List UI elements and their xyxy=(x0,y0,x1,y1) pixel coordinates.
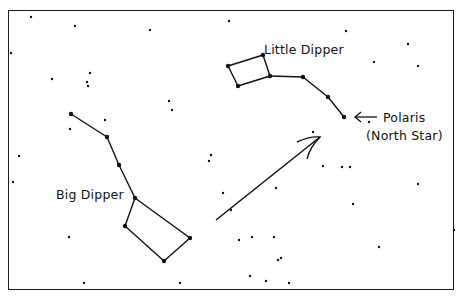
star-icon xyxy=(87,85,89,87)
star-icon xyxy=(345,30,347,32)
star-icon xyxy=(352,203,354,205)
star-icon xyxy=(275,187,277,189)
big-dipper-star-icon xyxy=(123,224,127,228)
star-icon xyxy=(453,229,455,231)
star-icon xyxy=(238,239,240,241)
big-dipper-star-icon xyxy=(133,196,137,200)
little-dipper-line xyxy=(238,76,270,86)
star-icon xyxy=(68,236,70,238)
star-icon xyxy=(265,280,267,282)
star-icon xyxy=(149,29,151,31)
star-icon xyxy=(277,259,279,261)
little-dipper-line xyxy=(228,55,263,66)
big-dipper-star-icon xyxy=(69,112,73,116)
little-dipper-label: Little Dipper xyxy=(264,42,344,57)
star-icon xyxy=(273,236,275,238)
arrowhead-icon xyxy=(297,137,320,159)
little-dipper-line xyxy=(328,97,344,117)
pointer-arrow xyxy=(216,137,320,220)
star-icon xyxy=(288,282,290,284)
star-icon xyxy=(18,155,20,157)
star-icon xyxy=(349,166,351,168)
little-dipper-line xyxy=(263,55,270,76)
little-dipper-star-icon xyxy=(268,74,272,78)
star-icon xyxy=(368,121,370,123)
star-icon xyxy=(12,181,14,183)
big-dipper-line xyxy=(71,114,107,137)
star-icon xyxy=(208,160,210,162)
star-icon xyxy=(312,131,314,133)
big-dipper-line xyxy=(164,238,190,261)
big-dipper-star-icon xyxy=(188,236,192,240)
polaris-label: Polaris xyxy=(383,110,425,125)
star-icon xyxy=(171,109,173,111)
star-icon xyxy=(378,246,380,248)
star-icon xyxy=(104,119,106,121)
little-dipper-line xyxy=(270,76,303,77)
star-icon xyxy=(228,20,230,22)
big-dipper-star-icon xyxy=(162,259,166,263)
star-icon xyxy=(69,128,71,130)
star-icon xyxy=(249,275,251,277)
star-icon xyxy=(51,78,53,80)
star-icon xyxy=(179,282,181,284)
big-dipper-star-icon xyxy=(105,135,109,139)
star-icon xyxy=(222,192,224,194)
star-icon xyxy=(251,236,253,238)
star-icon xyxy=(83,282,85,284)
big-dipper-line xyxy=(135,198,190,238)
little-dipper-star-icon xyxy=(326,95,330,99)
big-dipper-line xyxy=(125,198,135,226)
sky-canvas xyxy=(0,0,460,299)
big-dipper-line xyxy=(125,226,164,261)
star-icon xyxy=(280,257,282,259)
little-dipper-line xyxy=(228,66,238,86)
little-dipper-star-icon xyxy=(301,75,305,79)
star-icon xyxy=(407,43,409,45)
star-icon xyxy=(322,165,324,167)
star-icon xyxy=(168,100,170,102)
star-icon xyxy=(74,25,76,27)
star-icon xyxy=(210,154,212,156)
little-dipper-line xyxy=(303,77,328,97)
big-dipper-line xyxy=(107,137,119,165)
star-icon xyxy=(417,183,419,185)
big-dipper-label: Big Dipper xyxy=(56,187,124,202)
little-dipper-star-icon xyxy=(236,84,240,88)
little-dipper-star-icon xyxy=(226,64,230,68)
star-icon xyxy=(30,16,32,18)
star-icon xyxy=(10,52,12,54)
star-map: Little Dipper Big Dipper Polaris (North … xyxy=(0,0,460,299)
big-dipper-star-icon xyxy=(117,163,121,167)
star-icon xyxy=(86,81,88,83)
star-icon xyxy=(373,61,375,63)
star-icon xyxy=(341,166,343,168)
star-icon xyxy=(89,72,91,74)
north-star-label: (North Star) xyxy=(366,128,443,143)
little-dipper-star-icon xyxy=(342,115,346,119)
star-icon xyxy=(417,65,419,67)
